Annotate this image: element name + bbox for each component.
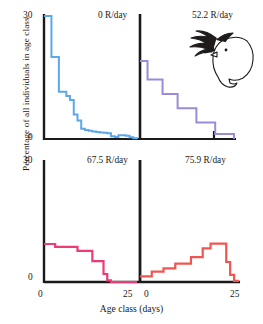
series-bottom-left	[44, 244, 137, 282]
series-top-left	[44, 16, 137, 139]
plot-surface	[0, 0, 263, 324]
series-bottom-right	[140, 244, 238, 282]
figure-panel-grid: Percentage of all individuals in age cla…	[0, 0, 263, 324]
bird-doodle-icon	[190, 31, 253, 87]
